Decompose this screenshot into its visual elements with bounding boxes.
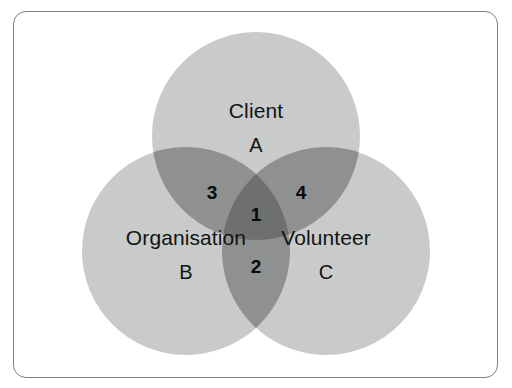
venn-circles-canvas xyxy=(0,0,512,388)
venn-diagram-figure: Client A Organisation B Volunteer C 1 2 … xyxy=(0,0,512,388)
